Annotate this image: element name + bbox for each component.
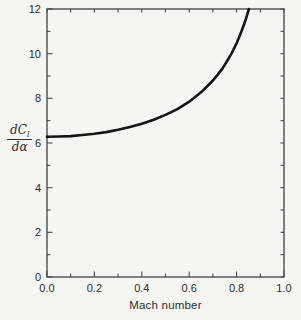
y-tick-label: 2: [35, 226, 41, 238]
chart-svg: 0.00.20.40.60.81.0024681012: [0, 0, 301, 320]
y-tick-label: 6: [35, 137, 41, 149]
y-axis-label-denominator: dα: [12, 140, 28, 155]
x-tick-label: 0.6: [182, 282, 197, 294]
y-axis-label-numerator: dCl: [7, 124, 32, 140]
x-axis-label: Mach number: [47, 299, 284, 311]
x-tick-label: 0.2: [87, 282, 102, 294]
plot-frame: [47, 9, 284, 277]
y-axis-label-num-main: dC: [10, 123, 27, 137]
x-tick-label: 0.4: [134, 282, 149, 294]
y-tick-label: 12: [29, 3, 41, 15]
y-axis-label: dCl dα: [7, 124, 32, 155]
x-tick-label: 0.0: [39, 282, 54, 294]
y-tick-label: 10: [29, 48, 41, 60]
y-tick-label: 4: [35, 182, 41, 194]
y-axis-label-num-subscript: l: [27, 130, 30, 139]
y-tick-label: 8: [35, 92, 41, 104]
lift-slope-curve: [47, 9, 249, 137]
figure: 0.00.20.40.60.81.0024681012 dCl dα Mach …: [0, 0, 301, 320]
y-tick-label: 0: [35, 271, 41, 283]
x-tick-label: 1.0: [276, 282, 291, 294]
x-tick-label: 0.8: [229, 282, 244, 294]
